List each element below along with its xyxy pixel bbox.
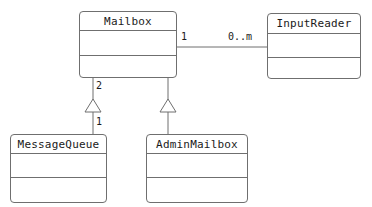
- uml-class-adminmailbox[interactable]: AdminMailbox: [146, 134, 248, 203]
- multiplicity-mailbox-to-inputreader-source: 1: [181, 32, 187, 42]
- uml-class-messagequeue[interactable]: MessageQueue: [10, 134, 107, 203]
- uml-attributes-compartment-inputreader: [268, 34, 360, 58]
- multiplicity-mailbox-to-inputreader-target: 0..m: [228, 32, 252, 42]
- generalization-adminmailbox-mailbox[interactable]: [160, 78, 176, 134]
- uml-operations-compartment-messagequeue: [11, 178, 106, 202]
- multiplicity-mailbox-to-messagequeue-bottom: 1: [96, 117, 102, 127]
- uml-operations-compartment-inputreader: [268, 58, 360, 78]
- uml-attributes-compartment-adminmailbox: [147, 154, 247, 178]
- uml-class-mailbox[interactable]: Mailbox: [79, 11, 177, 78]
- uml-class-name-messagequeue: MessageQueue: [11, 135, 106, 154]
- uml-operations-compartment-adminmailbox: [147, 178, 247, 202]
- generalization-arrowhead-icon: [160, 99, 176, 112]
- multiplicity-mailbox-to-messagequeue-top: 2: [96, 81, 102, 91]
- uml-class-inputreader[interactable]: InputReader: [267, 13, 361, 79]
- uml-operations-compartment-mailbox: [80, 56, 176, 77]
- uml-class-name-mailbox: Mailbox: [80, 12, 176, 31]
- uml-class-name-adminmailbox: AdminMailbox: [147, 135, 247, 154]
- uml-class-name-inputreader: InputReader: [268, 14, 360, 34]
- uml-class-diagram-canvas: Mailbox InputReader MessageQueue AdminMa…: [0, 0, 372, 207]
- uml-attributes-compartment-messagequeue: [11, 154, 106, 178]
- generalization-arrowhead-icon: [85, 99, 101, 112]
- uml-attributes-compartment-mailbox: [80, 31, 176, 56]
